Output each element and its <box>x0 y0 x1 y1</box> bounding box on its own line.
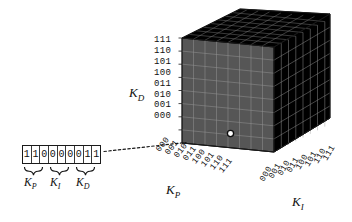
figure-canvas: 1 1 0 0 0 0 0 1 1 KP KI KD 111 110 101 1… <box>0 0 352 222</box>
ki-axis-ticks: 000 001 010 011 100 101 110 111 <box>0 0 352 222</box>
axis-label-ki: KI <box>292 194 304 212</box>
axis-label-ki-sub: I <box>301 202 304 212</box>
axis-label-ki-base: K <box>292 194 301 209</box>
